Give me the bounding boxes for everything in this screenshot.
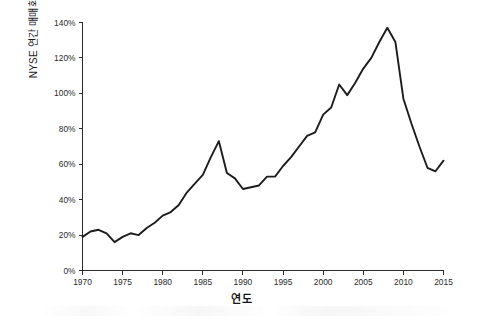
data-series-line: [83, 28, 444, 242]
chart-figure: NYSE 연간 매매회전율 0%20%40%60%80%100%120%140%…: [0, 0, 483, 323]
y-tick-label: 60%: [59, 159, 76, 169]
x-axis-ticks: 1970197519801985199019952000200520102015: [73, 271, 453, 287]
x-tick-label: 2015: [434, 277, 453, 287]
x-axis-title: 연도: [0, 290, 483, 306]
axis-frame: [83, 23, 444, 271]
x-tick-label: 1985: [194, 277, 213, 287]
line-chart-plot: 0%20%40%60%80%100%120%140% 1970197519801…: [0, 0, 483, 323]
y-axis-ticks: 0%20%40%60%80%100%120%140%: [54, 18, 82, 276]
y-tick-label: 120%: [54, 53, 76, 63]
y-tick-label: 0%: [63, 266, 76, 276]
y-tick-label: 140%: [54, 18, 76, 28]
y-tick-label: 40%: [59, 195, 76, 205]
x-tick-label: 1980: [153, 277, 172, 287]
x-tick-label: 2000: [314, 277, 333, 287]
y-tick-label: 100%: [54, 88, 76, 98]
x-tick-label: 2005: [354, 277, 373, 287]
y-tick-label: 80%: [59, 124, 76, 134]
x-tick-label: 1995: [274, 277, 293, 287]
x-tick-label: 1970: [73, 277, 92, 287]
x-tick-label: 1990: [234, 277, 253, 287]
x-tick-label: 2010: [394, 277, 413, 287]
x-tick-label: 1975: [113, 277, 132, 287]
y-tick-label: 20%: [59, 230, 76, 240]
